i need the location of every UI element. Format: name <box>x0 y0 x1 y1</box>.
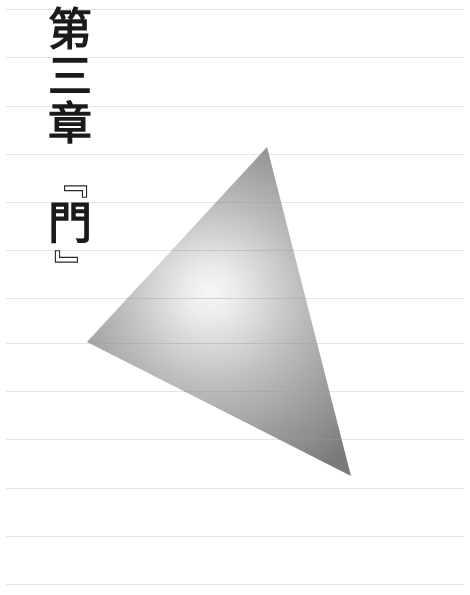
chapter-label-char-1: 第 <box>44 6 96 53</box>
chapter-label-char-3: 章 <box>44 100 96 147</box>
chapter-heading-vertical: 第 三 章 『 門 』 <box>44 6 96 283</box>
close-quote-bracket: 』 <box>53 240 87 292</box>
chapter-label-char-2: 三 <box>44 53 96 100</box>
open-quote-bracket: 『 <box>53 156 87 208</box>
document-page: 第 三 章 『 門 』 <box>0 0 470 595</box>
triangle-shape <box>87 147 351 476</box>
